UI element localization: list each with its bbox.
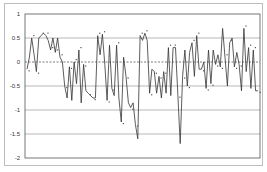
data-marker xyxy=(198,33,199,34)
data-marker xyxy=(80,47,81,48)
data-marker xyxy=(189,87,190,88)
data-marker xyxy=(250,45,251,46)
data-marker xyxy=(33,35,34,36)
y-tick-label: 0 xyxy=(17,59,21,65)
data-marker xyxy=(184,77,185,78)
y-tick-label: -0.5 xyxy=(10,83,21,89)
data-marker xyxy=(66,87,67,88)
data-marker xyxy=(38,73,39,74)
data-marker xyxy=(57,49,58,50)
data-marker xyxy=(222,68,223,69)
data-marker xyxy=(255,47,256,48)
data-marker xyxy=(260,92,261,93)
line-chart: 10.50-0.5-1-1.5-2 xyxy=(0,0,267,172)
data-marker xyxy=(90,94,91,95)
data-marker xyxy=(146,30,147,31)
data-marker xyxy=(29,70,30,71)
data-marker xyxy=(227,54,228,55)
data-marker xyxy=(231,40,232,41)
data-marker xyxy=(95,99,96,100)
data-marker xyxy=(71,68,72,69)
data-marker xyxy=(43,33,44,34)
data-marker xyxy=(217,65,218,66)
data-marker xyxy=(85,65,86,66)
data-marker xyxy=(194,40,195,41)
data-marker xyxy=(132,109,133,110)
data-marker xyxy=(52,47,53,48)
y-tick-label: 0.5 xyxy=(12,35,21,41)
data-marker xyxy=(128,77,129,78)
data-marker xyxy=(170,45,171,46)
data-marker xyxy=(76,59,77,60)
data-marker xyxy=(203,70,204,71)
data-markers xyxy=(29,25,261,126)
data-marker xyxy=(151,94,152,95)
data-marker xyxy=(175,45,176,46)
y-tick-label: -1.5 xyxy=(10,131,21,137)
data-marker xyxy=(62,54,63,55)
data-marker xyxy=(104,31,105,32)
data-marker xyxy=(179,97,180,98)
data-marker xyxy=(113,89,114,90)
y-tick-label: -2 xyxy=(15,155,21,161)
data-marker xyxy=(241,65,242,66)
data-marker xyxy=(212,85,213,86)
data-marker xyxy=(161,77,162,78)
data-marker xyxy=(109,101,110,102)
data-marker xyxy=(208,89,209,90)
y-axis-ticks: 10.50-0.5-1-1.5-2 xyxy=(10,11,21,161)
data-marker xyxy=(142,33,143,34)
y-tick-label: -1 xyxy=(15,107,21,113)
data-marker xyxy=(118,42,119,43)
data-marker xyxy=(245,25,246,26)
y-tick-label: 1 xyxy=(17,11,21,17)
data-marker xyxy=(123,123,124,124)
data-marker xyxy=(156,73,157,74)
data-marker xyxy=(47,33,48,34)
data-marker xyxy=(236,68,237,69)
data-marker xyxy=(165,73,166,74)
data-marker xyxy=(137,125,138,126)
data-marker xyxy=(99,33,100,34)
